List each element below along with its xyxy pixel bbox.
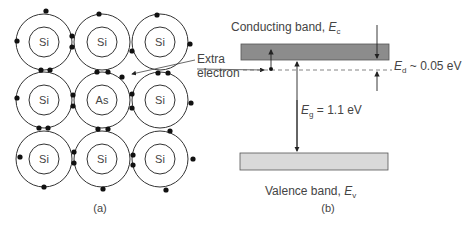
caption-b: (b)	[321, 202, 334, 214]
caption-a: (a)	[93, 202, 106, 214]
donor-energy-label: Ed ~ 0.05 eV	[394, 59, 462, 75]
atom-label: Si	[155, 36, 165, 48]
conduction-band-label: Conducting band, Ec	[231, 20, 340, 36]
valence-band-label: Valence band, Ev	[265, 184, 356, 200]
atom-label: Si	[39, 94, 49, 106]
atom-label: Si	[39, 36, 49, 48]
atom-label: Si	[155, 153, 165, 165]
atom-label: Si	[97, 36, 107, 48]
atom-label: Si	[97, 153, 107, 165]
atom-label-dopant: As	[96, 94, 109, 106]
extra-electron	[119, 74, 124, 79]
donor-electron	[269, 67, 273, 71]
band-gap-label: Eg = 1.1 eV	[301, 103, 362, 119]
atom-label: Si	[39, 153, 49, 165]
doping-diagram: Si Si Si Si As Si Si Si Si Extra electro…	[0, 0, 463, 225]
conduction-band	[241, 44, 389, 60]
extra-electron-label-2: electron	[197, 66, 240, 80]
atom-label: Si	[155, 94, 165, 106]
extra-electron-label-1: Extra	[197, 52, 225, 66]
valence-band	[240, 153, 388, 170]
